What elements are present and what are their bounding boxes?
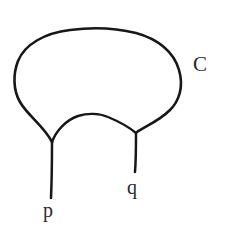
outer-loop-path [14,28,181,142]
tail-q-path [135,133,136,172]
tail-p-path [51,142,52,198]
point-label-p: p [43,200,53,220]
point-label-q: q [127,177,137,197]
figure-canvas: C q p [0,0,227,239]
curve-drawing [0,0,227,239]
inner-arc-path [52,114,136,142]
curve-label-c: C [193,54,207,75]
